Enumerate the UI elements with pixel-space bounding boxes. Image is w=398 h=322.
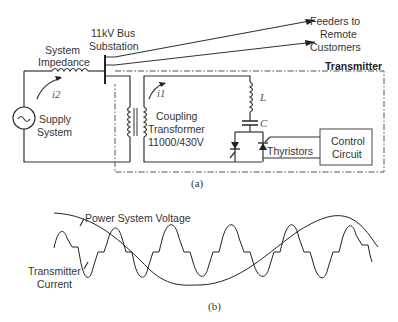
bus-label: Substation [89, 40, 139, 52]
inductor-label: L [259, 91, 266, 103]
inductor-icon [250, 82, 253, 112]
control-label: Circuit [332, 148, 362, 160]
feeders-label: Feeders to [310, 15, 360, 27]
capacitor-label: C [260, 117, 268, 129]
coupling-label: Transformer [148, 123, 205, 135]
transmitter-label: Transmitter [325, 60, 382, 72]
feeders-label: Remote [320, 28, 357, 40]
capacitor-icon [242, 121, 258, 125]
voltage-label: Power System Voltage [85, 212, 191, 224]
system-impedance-icon [52, 69, 88, 72]
current-label: Current [37, 278, 72, 290]
bus-label: 11kV Bus [91, 27, 135, 39]
coupling-label: Coupling [156, 110, 198, 122]
current-i2-label: i2 [52, 88, 61, 100]
coupling-label: 11000/430V [148, 136, 204, 148]
supply-label: Supply [39, 113, 72, 125]
current-label: Transmitter [28, 265, 81, 277]
ripple-control-diagram: 11kV Bus Substation System Impedance Fee… [0, 0, 398, 322]
supply-label: System [37, 126, 72, 138]
thyristors-label: Thyristors [267, 145, 313, 157]
coupling-transformer-icon [128, 107, 147, 137]
current-i1-label: i1 [157, 87, 166, 99]
current-waveform [54, 225, 372, 278]
caption-b: (b) [208, 300, 221, 313]
impedance-label: System [45, 44, 80, 56]
impedance-label: Impedance [38, 56, 90, 68]
feeders-label: Customers [310, 41, 361, 53]
control-label: Control [331, 135, 365, 147]
caption-a: (a) [191, 177, 204, 190]
